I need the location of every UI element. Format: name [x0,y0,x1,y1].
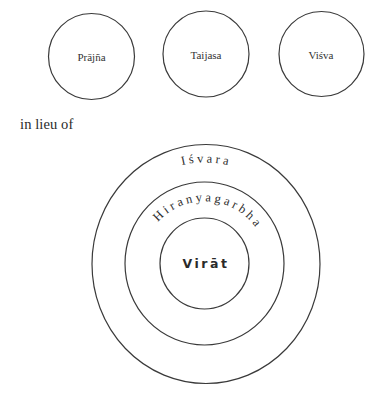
circle-prajna: Prājña [49,14,135,100]
concentric-diagram: I ś v a r a H i r a n y a g a r b h a Vi… [92,145,320,384]
label-hiranyagarbha: H i r a n y a g a r b h a [150,190,264,229]
diagram-canvas: Prājña Taijasa Viśva I ś v a r a H i r a… [0,0,383,403]
label-isvara: I ś v a r a [180,151,231,168]
label-visva: Viśva [308,49,333,61]
label-prajna: Prājña [77,51,105,63]
label-hiranyagarbha-path: H i r a n y a g a r b h a [150,190,264,229]
circle-taijasa: Taijasa [163,11,249,97]
top-row: Prājña Taijasa Viśva [49,11,365,100]
label-virat: Virāt [183,256,230,271]
label-taijasa: Taijasa [191,49,222,61]
circle-visva: Viśva [279,12,364,97]
label-isvara-path: I ś v a r a [180,151,231,168]
caption-in-lieu-of: in lieu of [20,116,73,133]
